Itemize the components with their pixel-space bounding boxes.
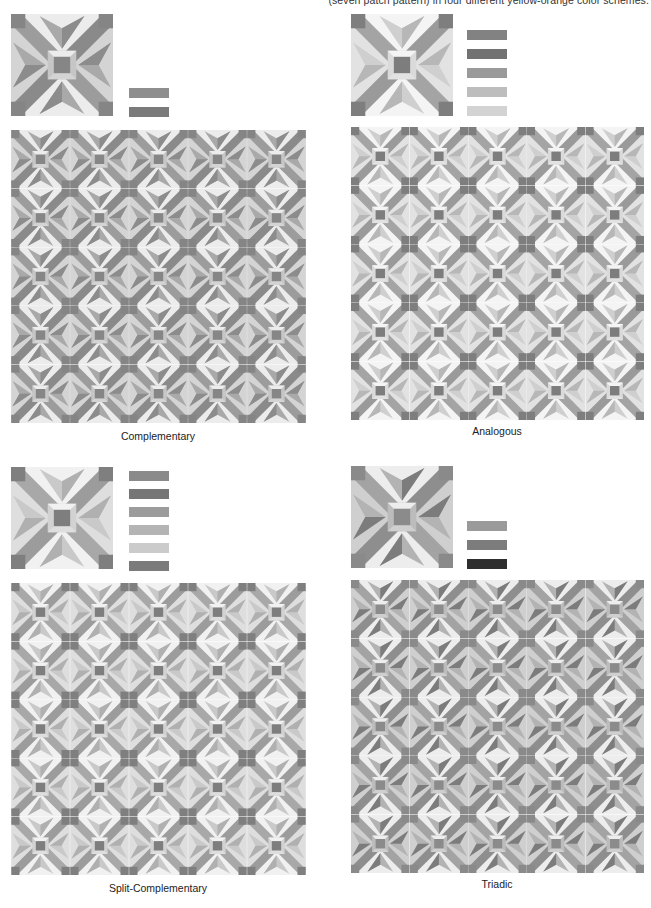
color-swatch	[467, 30, 507, 40]
color-swatch	[129, 107, 169, 117]
color-swatch	[467, 559, 507, 569]
quilt-pattern-analogous	[351, 127, 644, 420]
scheme-label: Analogous	[472, 425, 522, 437]
page-caption: (seven patch pattern) in four different …	[328, 0, 649, 6]
color-swatch	[467, 87, 507, 97]
scheme-label: Complementary	[121, 430, 195, 442]
color-swatch	[467, 106, 507, 116]
color-swatch	[129, 543, 169, 553]
color-swatch	[129, 471, 169, 481]
sample-block-triadic	[351, 466, 453, 568]
color-swatch	[129, 507, 169, 517]
color-swatch	[467, 521, 507, 531]
color-swatch	[467, 49, 507, 59]
scheme-label: Split-Complementary	[109, 882, 207, 894]
sample-block-complementary	[11, 14, 113, 116]
color-swatch	[129, 88, 169, 98]
quilt-pattern-triadic	[351, 580, 644, 873]
scheme-label: Triadic	[481, 878, 512, 890]
color-swatch	[467, 68, 507, 78]
color-swatch	[129, 489, 169, 499]
quilt-pattern-complementary	[11, 130, 306, 423]
sample-block-analogous	[351, 14, 453, 116]
color-swatch	[129, 561, 169, 571]
color-swatch	[129, 525, 169, 535]
color-swatch	[467, 540, 507, 550]
quilt-pattern-split-complementary	[11, 583, 306, 875]
sample-block-split-complementary	[11, 467, 113, 569]
